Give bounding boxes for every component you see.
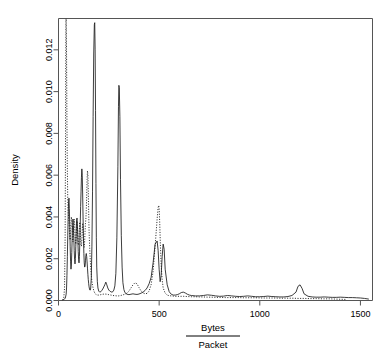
x-tick-label: 1000 xyxy=(250,309,270,319)
y-tick-label: 0.006 xyxy=(44,164,54,187)
y-axis-ticks xyxy=(54,50,59,301)
density-curve-solid xyxy=(63,23,369,300)
x-axis-title-denominator: Packet xyxy=(198,339,227,350)
x-axis-tick-labels: 050010001500 xyxy=(56,309,370,319)
x-tick-label: 0 xyxy=(56,309,61,319)
x-axis-ticks xyxy=(59,301,361,306)
density-plot-figure: 0.0000.0020.0040.0060.0080.0100.012 0500… xyxy=(0,0,386,364)
y-tick-label: 0.008 xyxy=(44,122,54,145)
density-curve-dotted xyxy=(63,19,347,301)
plot-frame xyxy=(59,19,373,301)
y-axis-title: Density xyxy=(9,154,20,186)
y-tick-label: 0.000 xyxy=(44,289,54,312)
y-axis-tick-labels: 0.0000.0020.0040.0060.0080.0100.012 xyxy=(44,39,54,312)
x-tick-label: 500 xyxy=(152,309,167,319)
y-tick-label: 0.012 xyxy=(44,39,54,62)
y-axis-title-label: Density xyxy=(9,154,20,186)
x-tick-label: 1500 xyxy=(350,309,370,319)
y-tick-label: 0.010 xyxy=(44,80,54,103)
density-curves xyxy=(63,19,369,301)
x-axis-title-fraction: Bytes Packet xyxy=(186,322,240,350)
x-axis-title-numerator: Bytes xyxy=(201,322,225,333)
y-tick-label: 0.002 xyxy=(44,247,54,270)
y-tick-label: 0.004 xyxy=(44,206,54,229)
chart-surface: 0.0000.0020.0040.0060.0080.0100.012 0500… xyxy=(0,0,386,364)
